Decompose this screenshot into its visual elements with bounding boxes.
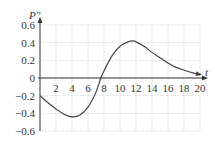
y-tick-label: −0.2 (15, 90, 35, 102)
y-tick-label: 0.4 (21, 37, 35, 49)
x-tick-label: 14 (147, 82, 159, 94)
chart: 24681012141618200.60.40.20−0.2−0.4−0.6 P… (0, 0, 215, 145)
x-tick-label: 20 (195, 82, 207, 94)
y-tick-label: −0.6 (15, 125, 35, 137)
x-tick-label: 12 (131, 82, 142, 94)
y-axis-label: P'' (28, 9, 41, 21)
x-tick-label: 10 (115, 82, 127, 94)
y-tick-label: 0 (30, 72, 36, 84)
x-tick-label: 18 (179, 82, 191, 94)
x-axis-label: t (205, 66, 209, 78)
x-tick-label: 8 (101, 82, 107, 94)
x-tick-label: 2 (53, 82, 59, 94)
x-tick-label: 16 (163, 82, 175, 94)
x-tick-label: 6 (85, 82, 91, 94)
y-tick-label: −0.4 (15, 107, 35, 119)
curve-arrow-icon (196, 71, 202, 76)
y-tick-label: 0.2 (21, 54, 35, 66)
x-tick-label: 4 (69, 82, 75, 94)
